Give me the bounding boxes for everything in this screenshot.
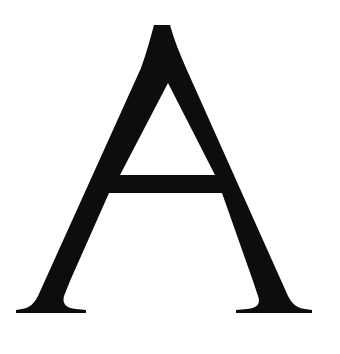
image-canvas: A: [0, 0, 340, 354]
letter-a-glyph-svg: [0, 0, 340, 354]
